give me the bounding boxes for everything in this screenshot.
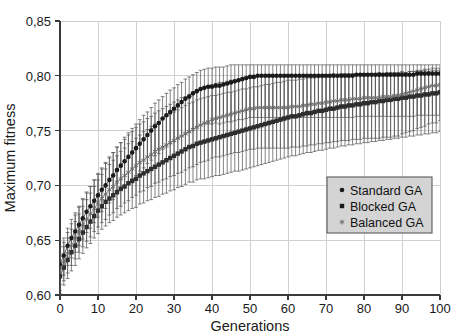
legend-marker-square	[340, 204, 344, 208]
y-tick-label: 0,65	[26, 233, 51, 248]
x-tick-label: 60	[281, 301, 295, 316]
y-tick-label: 0,85	[26, 14, 51, 29]
x-tick-label: 90	[395, 301, 409, 316]
x-tick-label: 70	[319, 301, 333, 316]
fitness-vs-generations-chart: 01020304050607080901000,600,650,700,750,…	[0, 0, 467, 336]
y-tick-label: 0,75	[26, 124, 51, 139]
x-tick-label: 30	[167, 301, 181, 316]
chart-background	[0, 0, 467, 336]
x-tick-label: 80	[357, 301, 371, 316]
y-tick-label: 0,60	[26, 288, 51, 303]
chart-container: 01020304050607080901000,600,650,700,750,…	[0, 0, 467, 336]
legend-label: Standard GA	[350, 184, 423, 198]
legend-label: Balanced GA	[350, 216, 424, 230]
x-tick-label: 50	[243, 301, 257, 316]
x-tick-label: 20	[129, 301, 143, 316]
y-tick-label: 0,80	[26, 69, 51, 84]
x-tick-label: 0	[56, 301, 63, 316]
x-tick-label: 10	[91, 301, 105, 316]
legend-label: Blocked GA	[350, 200, 417, 214]
legend-marker-circle	[340, 188, 345, 193]
y-tick-label: 0,70	[26, 178, 51, 193]
x-tick-label: 100	[429, 301, 451, 316]
x-tick-label: 40	[205, 301, 219, 316]
y-axis-title: Maximum fitness	[2, 104, 18, 213]
chart-legend[interactable]: Standard GABlocked GABalanced GA	[327, 177, 432, 233]
x-axis-title: Generations	[211, 318, 290, 334]
